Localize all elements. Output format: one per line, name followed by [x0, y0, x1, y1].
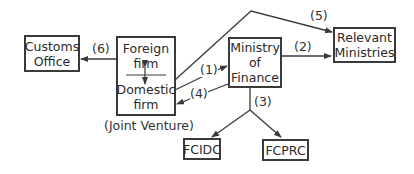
foreign-firm-line1: Foreign: [123, 41, 169, 56]
domestic-firm-line2: firm: [117, 97, 176, 112]
edge-label-6: (6): [92, 42, 110, 56]
fcidc-node: FCIDC: [183, 138, 221, 160]
domestic-firm-section: Domestic firm: [117, 82, 176, 112]
edge-label-4: (4): [190, 87, 208, 101]
fcprc-node: FCPRC: [262, 139, 309, 161]
fcprc-label: FCPRC: [265, 143, 305, 158]
edge-3-fcprc: [250, 110, 281, 137]
fcidc-label: FCIDC: [183, 142, 221, 157]
relevant-line2: Ministries: [335, 45, 395, 60]
domestic-firm-line1: Domestic: [117, 82, 176, 97]
joint-venture-node: Foreign firm Domestic firm: [116, 36, 176, 116]
edge-label-1: (1): [200, 63, 218, 77]
customs-label-line2: Office: [34, 54, 71, 69]
edge-label-5: (5): [310, 9, 328, 23]
edge-3-fcidc: [212, 110, 250, 137]
ministry-of-finance-node: Ministry of Finance: [228, 37, 282, 88]
edge-label-3: (3): [254, 95, 272, 109]
mof-line2: of: [249, 55, 261, 70]
customs-office-node: Customs Office: [24, 35, 80, 72]
relevant-ministries-node: Relevant Ministries: [333, 27, 396, 63]
relevant-line1: Relevant: [337, 30, 392, 45]
joint-venture-caption: (Joint Venture): [104, 119, 194, 133]
mof-line1: Ministry: [230, 40, 280, 55]
foreign-firm-line2: firm: [123, 56, 169, 71]
mof-line3: Finance: [231, 70, 279, 85]
customs-label-line1: Customs: [25, 39, 79, 54]
foreign-firm-section: Foreign firm: [123, 41, 169, 71]
edge-label-2: (2): [294, 40, 312, 54]
